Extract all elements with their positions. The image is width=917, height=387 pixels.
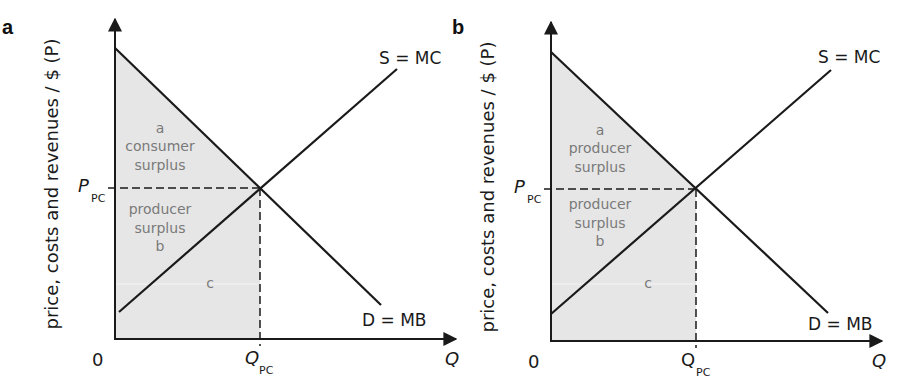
region-c-label: c (644, 275, 652, 291)
panel-label-b: b (452, 16, 464, 38)
quantity-pc-label: Q PC (245, 347, 274, 377)
svg-text:a: a (156, 120, 165, 136)
svg-text:surplus: surplus (575, 159, 626, 175)
x-axis-label: Q (445, 348, 459, 369)
region-c-label: c (206, 275, 214, 291)
svg-text:PC: PC (527, 193, 542, 206)
panel-label-a: a (2, 16, 14, 38)
svg-text:b: b (156, 238, 165, 254)
demand-label: D = MB (362, 310, 426, 330)
supply-label: S = MC (379, 48, 441, 68)
origin-label: 0 (528, 351, 539, 372)
svg-text:P: P (78, 175, 89, 196)
svg-text:Q: Q (245, 347, 259, 368)
x-axis-label: Q (872, 350, 886, 371)
svg-text:PC: PC (91, 192, 106, 205)
svg-text:PC: PC (696, 366, 711, 379)
svg-text:surplus: surplus (135, 157, 186, 173)
svg-text:surplus: surplus (135, 220, 186, 236)
price-pc-label: P PC (514, 176, 542, 206)
svg-text:producer: producer (569, 140, 632, 156)
panel-a: a price, costs and revenues / $ (P) S = … (2, 16, 459, 377)
svg-text:PC: PC (259, 364, 274, 377)
svg-text:b: b (596, 233, 605, 249)
demand-label: D = MB (808, 314, 872, 334)
panel-b: b price, costs and revenues / $ (P) S = … (452, 16, 886, 379)
price-pc-label: P PC (78, 175, 106, 205)
surplus-diagrams: a price, costs and revenues / $ (P) S = … (0, 0, 917, 387)
svg-text:Q: Q (681, 349, 695, 370)
supply-label: S = MC (818, 47, 880, 67)
origin-label: 0 (92, 349, 103, 370)
svg-text:c: c (644, 275, 652, 291)
y-axis-label: price, costs and revenues / $ (P) (41, 39, 62, 330)
svg-text:a: a (596, 122, 605, 138)
svg-text:P: P (514, 176, 525, 197)
y-axis-label: price, costs and revenues / $ (P) (477, 42, 498, 333)
svg-text:surplus: surplus (575, 215, 626, 231)
svg-text:producer: producer (569, 196, 632, 212)
svg-text:consumer: consumer (125, 138, 195, 154)
quantity-pc-label: Q PC (681, 349, 711, 379)
svg-text:producer: producer (129, 201, 192, 217)
svg-text:c: c (206, 275, 214, 291)
